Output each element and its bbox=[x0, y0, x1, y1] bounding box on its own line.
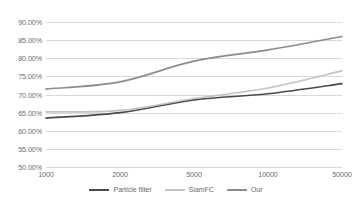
y-axis-tick-label: 60.00% bbox=[0, 126, 42, 135]
y-axis-tick-label: 65.00% bbox=[0, 108, 42, 117]
legend-color-swatch bbox=[227, 189, 247, 191]
gridline bbox=[46, 167, 342, 168]
y-axis-tick-label: 70.00% bbox=[0, 90, 42, 99]
legend-label: Our bbox=[251, 185, 263, 194]
y-axis-tick-label: 80.00% bbox=[0, 54, 42, 63]
y-axis-tick-label: 50.00% bbox=[0, 163, 42, 172]
x-axis-tick-label: 10000 bbox=[258, 170, 278, 179]
y-axis-tick-label: 75.00% bbox=[0, 72, 42, 81]
y-axis-tick-label: 90.00% bbox=[0, 18, 42, 27]
chart-legend: Particle filterSiamFCOur bbox=[0, 185, 352, 194]
legend-item[interactable]: Our bbox=[227, 185, 263, 194]
x-axis-tick-label: 2000 bbox=[112, 170, 128, 179]
y-axis-tick-label: 55.00% bbox=[0, 144, 42, 153]
legend-label: SiamFC bbox=[189, 185, 214, 194]
x-axis-tick-label: 5000 bbox=[186, 170, 202, 179]
legend-color-swatch bbox=[165, 189, 185, 191]
legend-color-swatch bbox=[89, 189, 109, 191]
series-line bbox=[46, 71, 342, 112]
legend-label: Particle filter bbox=[113, 185, 151, 194]
x-axis-tick-label: 50000 bbox=[332, 170, 352, 179]
series-line bbox=[46, 84, 342, 118]
line-chart: 50.00%55.00%60.00%65.00%70.00%75.00%80.0… bbox=[0, 0, 352, 206]
legend-item[interactable]: SiamFC bbox=[165, 185, 214, 194]
legend-item[interactable]: Particle filter bbox=[89, 185, 151, 194]
y-axis-tick-label: 85.00% bbox=[0, 36, 42, 45]
x-axis-tick-label: 1000 bbox=[38, 170, 54, 179]
series-lines bbox=[46, 22, 342, 167]
